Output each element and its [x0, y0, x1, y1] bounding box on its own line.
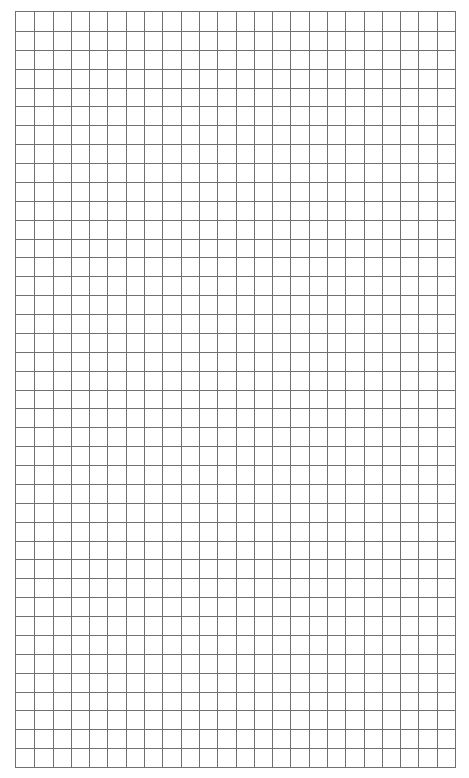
grid-horizontal-line	[16, 239, 455, 240]
grid-horizontal-line	[16, 144, 455, 145]
grid-horizontal-line	[16, 106, 455, 107]
grid-horizontal-line	[16, 257, 455, 258]
grid-horizontal-line	[16, 616, 455, 617]
grid-horizontal-line	[16, 295, 455, 296]
grid-horizontal-line	[16, 692, 455, 693]
grid-horizontal-line	[16, 503, 455, 504]
grid-horizontal-line	[16, 201, 455, 202]
grid-horizontal-line	[16, 352, 455, 353]
grid-horizontal-line	[16, 578, 455, 579]
grid-horizontal-line	[16, 333, 455, 334]
grid-horizontal-line	[16, 559, 455, 560]
grid-horizontal-line	[16, 220, 455, 221]
grid-horizontal-line	[16, 50, 455, 51]
grid-horizontal-line	[16, 88, 455, 89]
grid-horizontal-line	[16, 163, 455, 164]
grid-horizontal-line	[16, 427, 455, 428]
grid-horizontal-line	[16, 654, 455, 655]
grid-horizontal-line	[16, 673, 455, 674]
graph-paper-grid	[15, 11, 456, 768]
grid-horizontal-line	[16, 541, 455, 542]
grid-horizontal-line	[16, 729, 455, 730]
grid-horizontal-line	[16, 408, 455, 409]
grid-horizontal-line	[16, 390, 455, 391]
grid-horizontal-line	[16, 635, 455, 636]
grid-horizontal-line	[16, 710, 455, 711]
grid-horizontal-line	[16, 484, 455, 485]
grid-horizontal-line	[16, 69, 455, 70]
grid-horizontal-line	[16, 182, 455, 183]
grid-horizontal-line	[16, 314, 455, 315]
grid-horizontal-line	[16, 446, 455, 447]
grid-horizontal-line	[16, 125, 455, 126]
grid-horizontal-line	[16, 597, 455, 598]
grid-horizontal-line	[16, 465, 455, 466]
grid-horizontal-line	[16, 31, 455, 32]
grid-horizontal-line	[16, 522, 455, 523]
grid-horizontal-line	[16, 748, 455, 749]
grid-horizontal-line	[16, 371, 455, 372]
grid-horizontal-line	[16, 276, 455, 277]
